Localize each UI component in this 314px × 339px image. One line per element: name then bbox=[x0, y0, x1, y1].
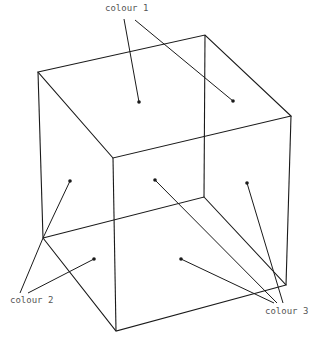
cube-drawing bbox=[0, 0, 314, 339]
label-colour-3: colour 3 bbox=[265, 306, 308, 316]
label-colour-1: colour 1 bbox=[105, 3, 148, 13]
cube-edges bbox=[38, 35, 291, 331]
leader-lines bbox=[20, 19, 283, 303]
label-colour-2: colour 2 bbox=[10, 295, 53, 305]
face-markers bbox=[68, 99, 249, 261]
cube-diagram: colour 1 colour 2 colour 3 bbox=[0, 0, 314, 339]
